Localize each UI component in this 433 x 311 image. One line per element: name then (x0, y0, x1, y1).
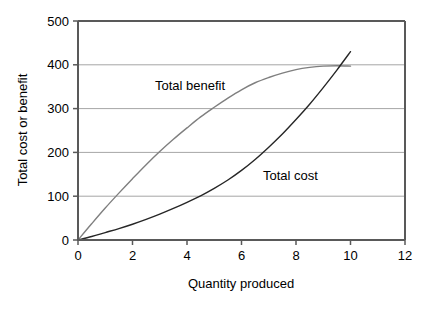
x-axis-title: Quantity produced (188, 276, 294, 291)
x-tick-label: 4 (183, 248, 190, 263)
plot-background (78, 21, 405, 240)
y-tick-label: 0 (62, 233, 69, 248)
y-tick-label: 300 (47, 101, 69, 116)
x-axis-tick-labels: 024681012 (74, 248, 412, 263)
chart-container: 0100200300400500 024681012 Quantity prod… (0, 0, 433, 311)
y-axis-tick-labels: 0100200300400500 (47, 14, 69, 248)
y-tick-label: 400 (47, 57, 69, 72)
y-axis-title: Total cost or benefit (15, 73, 30, 186)
x-tick-label: 8 (292, 248, 299, 263)
x-tick-label: 0 (74, 248, 81, 263)
y-tick-label: 500 (47, 14, 69, 29)
x-tick-label: 10 (343, 248, 357, 263)
x-tick-label: 6 (238, 248, 245, 263)
y-tick-label: 200 (47, 145, 69, 160)
chart-plot: 0100200300400500 024681012 Quantity prod… (0, 0, 433, 311)
y-tick-label: 100 (47, 189, 69, 204)
x-tick-label: 12 (398, 248, 412, 263)
series-annotation-total-cost: Total cost (263, 168, 318, 183)
series-annotation-total-benefit: Total benefit (155, 78, 225, 93)
x-tick-label: 2 (129, 248, 136, 263)
